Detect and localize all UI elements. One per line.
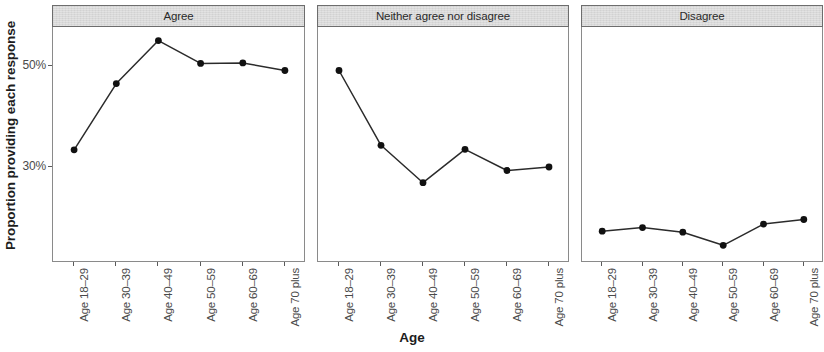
faceted-line-chart: Proportion providing each response 30%50… — [0, 0, 824, 352]
x-tick-mark — [380, 262, 381, 266]
series-line — [602, 220, 804, 246]
plot-area — [317, 27, 569, 262]
data-point — [113, 80, 120, 87]
facet-strip-label: Neither agree nor disagree — [376, 10, 510, 22]
data-point — [546, 164, 553, 171]
x-tick-mark — [722, 262, 723, 266]
x-tick-mark — [422, 262, 423, 266]
series-canvas — [53, 27, 306, 262]
x-tick-mark — [115, 262, 116, 266]
x-tick-mark — [200, 262, 201, 266]
data-point — [599, 228, 606, 235]
data-point — [420, 179, 427, 186]
data-point — [336, 67, 343, 74]
facet-strip-label: Disagree — [679, 10, 724, 22]
facet-strip-agree: Agree — [52, 5, 305, 27]
series-line — [74, 41, 285, 150]
x-tick-mark — [73, 262, 74, 266]
data-point — [282, 67, 289, 74]
data-point — [462, 146, 469, 153]
plot-area — [52, 27, 305, 262]
facet-strip-neither-agree-nor-disagree: Neither agree nor disagree — [317, 5, 569, 27]
data-point — [800, 216, 807, 223]
data-point — [679, 229, 686, 236]
plot-area — [581, 27, 823, 262]
x-tick-label: Age 70 plus — [808, 268, 824, 327]
y-tick-label: 30% — [2, 159, 46, 173]
data-point — [197, 60, 204, 67]
series-canvas — [582, 27, 824, 262]
x-tick-mark — [157, 262, 158, 266]
x-axis-title: Age — [0, 330, 824, 345]
x-tick-mark — [642, 262, 643, 266]
data-point — [760, 221, 767, 228]
series-line — [339, 71, 549, 183]
facet-strip-disagree: Disagree — [581, 5, 823, 27]
data-point — [504, 167, 511, 174]
data-point — [155, 37, 162, 44]
x-tick-mark — [284, 262, 285, 266]
x-tick-label: Age 70 plus — [289, 268, 349, 327]
series-canvas — [318, 27, 570, 262]
x-tick-mark — [338, 262, 339, 266]
y-tick-label: 50% — [2, 58, 46, 72]
x-tick-mark — [242, 262, 243, 266]
x-tick-label: Age 70 plus — [553, 268, 613, 327]
data-point — [720, 242, 727, 249]
x-tick-mark — [682, 262, 683, 266]
data-point — [71, 146, 78, 153]
y-axis-ticks: 30%50% — [0, 0, 46, 352]
facet-strip-label: Agree — [163, 10, 193, 22]
x-tick-mark — [548, 262, 549, 266]
data-point — [239, 60, 246, 67]
x-tick-mark — [763, 262, 764, 266]
x-tick-mark — [601, 262, 602, 266]
data-point — [639, 224, 646, 231]
x-tick-mark — [464, 262, 465, 266]
x-tick-mark — [803, 262, 804, 266]
x-tick-mark — [506, 262, 507, 266]
data-point — [378, 142, 385, 149]
